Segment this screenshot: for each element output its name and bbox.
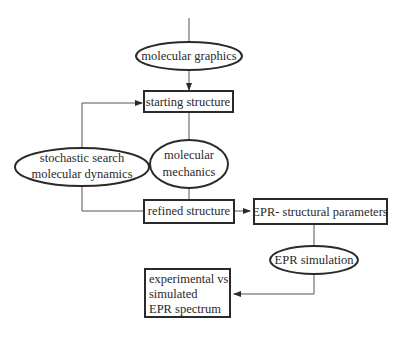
label-epr-structural-parameters: EPR- structural parameters (252, 205, 388, 219)
label-experimental-line2: simulated (149, 287, 198, 301)
label-starting-structure: starting structure (146, 95, 231, 109)
label-refined-structure: refined structure (148, 204, 231, 218)
label-stochastic-search-line2: molecular dynamics (31, 167, 132, 181)
label-molecular-mechanics-line1: molecular (164, 148, 215, 162)
connector-refined-to-stochastic (82, 186, 144, 211)
label-epr-simulation: EPR simulation (275, 253, 355, 267)
label-experimental-line3: EPR spectrum (149, 302, 221, 316)
label-stochastic-search-line1: stochastic search (40, 151, 125, 165)
arrow-stochastic-to-starting (82, 103, 142, 148)
label-molecular-graphics: molecular graphics (141, 49, 237, 63)
label-molecular-mechanics-line2: mechanics (163, 165, 216, 179)
arrow-simulation-to-experimental (234, 274, 314, 294)
label-experimental-line1: experimental vs. (149, 272, 232, 286)
flowchart: molecular graphics starting structure st… (0, 0, 405, 338)
